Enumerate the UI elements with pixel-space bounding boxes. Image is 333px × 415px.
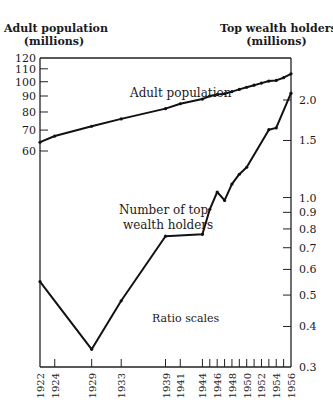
adult-population-line-point	[38, 141, 41, 144]
right-tick-label: 0.8	[299, 223, 317, 236]
right-tick-label: 1.0	[299, 192, 317, 205]
wealth-holders-line-point	[267, 128, 270, 131]
ratio-scales-annotation: Ratio scales	[152, 312, 220, 325]
x-tick-label: 1941	[175, 373, 186, 398]
chart-plot: 607080901001101200.30.40.50.60.70.80.91.…	[0, 0, 333, 415]
right-tick-label: 0.9	[299, 206, 317, 219]
wealth-holders-line-point	[289, 92, 292, 95]
wealth-holders-line-point	[90, 348, 93, 351]
wealth-annotation-line2: wealth holders	[123, 218, 213, 232]
wealth-holders-line-point	[238, 173, 241, 176]
x-tick-label: 1933	[116, 373, 127, 398]
x-tick-label: 1929	[87, 373, 98, 398]
adult-population-line-point	[179, 102, 182, 105]
right-tick-label: 0.5	[299, 289, 317, 302]
wealth-holders-line-point	[275, 126, 278, 129]
left-tick-label: 70	[22, 124, 36, 137]
wealth-annotation-line1: Number of top	[119, 203, 208, 217]
adult-population-line-point	[267, 79, 270, 82]
x-tick-label: 1948	[227, 373, 238, 398]
right-tick-label: 2.0	[299, 94, 317, 107]
adult-population-line-point	[245, 86, 248, 89]
wealth-holders-line-point	[38, 280, 41, 283]
wealth-holders-line-point	[216, 190, 219, 193]
wealth-holders-line-point	[223, 199, 226, 202]
x-tick-label: 1939	[161, 373, 172, 398]
x-tick-label: 1950	[242, 373, 253, 398]
adult-population-line-point	[53, 134, 56, 137]
x-tick-label: 1924	[50, 373, 61, 398]
adult-population-line-point	[260, 81, 263, 84]
right-tick-label: 0.7	[299, 242, 317, 255]
right-tick-label: 0.6	[299, 263, 317, 276]
right-tick-label: 1.5	[299, 134, 317, 147]
right-tick-label: 0.4	[299, 320, 317, 333]
x-tick-label: 1946	[212, 373, 223, 398]
x-tick-label: 1956	[286, 373, 297, 398]
left-tick-label: 60	[22, 145, 36, 158]
wealth-holders-line-point	[120, 299, 123, 302]
adult-population-line-point	[238, 88, 241, 91]
x-tick-label: 1954	[271, 373, 282, 398]
wealth-holders-line-point	[164, 235, 167, 238]
right-tick-label: 0.3	[299, 361, 317, 374]
adult-population-line-point	[252, 84, 255, 87]
adult-population-line-point	[275, 79, 278, 82]
adult-population-line-point	[289, 72, 292, 75]
left-tick-label: 80	[22, 106, 36, 119]
x-tick-label: 1952	[256, 373, 267, 398]
wealth-holders-line-point	[230, 183, 233, 186]
adult-population-line-point	[164, 107, 167, 110]
wealth-holders-line-point	[208, 208, 211, 211]
x-tick-label: 1944	[197, 373, 208, 398]
adult-population-annotation: Adult population	[129, 86, 232, 100]
x-tick-label: 1922	[35, 373, 46, 398]
left-tick-label: 120	[15, 52, 36, 65]
left-tick-label: 90	[22, 90, 36, 103]
left-tick-label: 100	[15, 76, 36, 89]
wealth-holders-line-point	[245, 166, 248, 169]
adult-population-line-point	[120, 117, 123, 120]
adult-population-line-point	[90, 125, 93, 128]
wealth-holders-line-point	[201, 233, 204, 236]
adult-population-line-point	[282, 76, 285, 79]
